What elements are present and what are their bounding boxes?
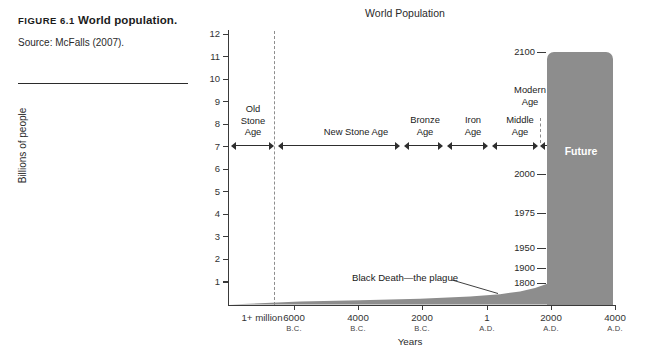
year-marker-1950: 1950 <box>495 242 535 253</box>
era-arrow-left-iron-age <box>447 142 452 150</box>
y-tick-mark-1 <box>223 281 228 282</box>
x-tick-era-5: A.D. <box>516 324 586 333</box>
year-marker-2100: 2100 <box>495 46 535 57</box>
x-tick-label-6: 4000A.D. <box>580 312 648 333</box>
y-tick-mark-12 <box>223 34 228 35</box>
era-arrow-left-old-stone-age <box>231 142 236 150</box>
y-tick-mark-11 <box>223 56 228 57</box>
y-tick-label-1: 1 <box>176 276 220 287</box>
year-marker-dash-1975 <box>537 213 546 214</box>
x-tick-mark-3 <box>422 305 423 310</box>
x-tick-value-6: 4000 <box>604 312 626 323</box>
x-tick-value-4: 1 <box>484 312 489 323</box>
x-tick-era-1: B.C. <box>259 324 329 333</box>
y-tick-mark-10 <box>223 79 228 80</box>
x-tick-label-1: 6000B.C. <box>259 312 329 333</box>
x-tick-value-5: 2000 <box>540 312 562 323</box>
divider-old-new-stone-age <box>274 31 275 305</box>
year-marker-2000: 2000 <box>495 168 535 179</box>
x-tick-label-5: 2000A.D. <box>516 312 586 333</box>
era-label-middle-age: MiddleAge <box>497 114 543 137</box>
x-tick-mark-5 <box>551 305 552 310</box>
y-tick-mark-9 <box>223 101 228 102</box>
x-tick-value-2: 4000 <box>347 312 369 323</box>
x-axis-label: Years <box>370 336 450 347</box>
x-tick-label-3: 2000B.C. <box>387 312 457 333</box>
era-span-old-stone-age <box>236 145 270 146</box>
y-tick-mark-5 <box>223 191 228 192</box>
y-tick-label-9: 9 <box>176 96 220 107</box>
y-tick-label-6: 6 <box>176 163 220 174</box>
x-tick-era-2: B.C. <box>323 324 393 333</box>
era-span-iron-age <box>452 145 484 146</box>
year-marker-dash-2000 <box>537 174 546 175</box>
x-tick-value-3: 2000 <box>411 312 433 323</box>
x-tick-mark-6 <box>615 305 616 310</box>
x-tick-label-2: 4000B.C. <box>323 312 393 333</box>
x-tick-mark-4 <box>487 305 488 310</box>
y-tick-mark-4 <box>223 214 228 215</box>
era-arrow-left-middle-age <box>492 142 497 150</box>
era-arrow-left-new-stone-age <box>278 142 283 150</box>
era-span-new-stone-age <box>283 145 396 146</box>
era-label-old-stone-age: OldStoneAge <box>232 103 274 138</box>
year-marker-1900: 1900 <box>495 262 535 273</box>
era-arrow-right-iron-age <box>483 142 488 150</box>
y-tick-mark-2 <box>223 259 228 260</box>
chart-title: World Population <box>330 7 480 19</box>
y-tick-label-3: 3 <box>176 231 220 242</box>
year-marker-dash-2100 <box>537 52 546 53</box>
year-marker-1975: 1975 <box>495 207 535 218</box>
era-span-bronze-age <box>409 145 439 146</box>
x-tick-value-1: 6000 <box>283 312 305 323</box>
y-tick-label-8: 8 <box>176 118 220 129</box>
chart-area: World Population Billions of people Year… <box>0 0 648 363</box>
era-arrow-right-middle-age <box>533 142 538 150</box>
y-tick-label-12: 12 <box>176 28 220 39</box>
year-marker-1800: 1800 <box>495 277 535 288</box>
x-tick-mark-1 <box>294 305 295 310</box>
y-axis-line <box>228 30 229 306</box>
future-projection-block <box>547 52 613 305</box>
era-arrow-right-old-stone-age <box>269 142 274 150</box>
x-tick-mark-2 <box>358 305 359 310</box>
y-tick-label-11: 11 <box>176 51 220 62</box>
figure-container: FIGURE 6.1 World population. Source: McF… <box>0 0 648 363</box>
y-tick-mark-8 <box>223 124 228 125</box>
era-arrow-left-modern-age <box>540 142 545 150</box>
y-tick-label-2: 2 <box>176 253 220 264</box>
y-tick-label-7: 7 <box>176 141 220 152</box>
year-marker-dash-1950 <box>537 248 546 249</box>
x-tick-label-4: 1A.D. <box>452 312 522 333</box>
y-tick-label-4: 4 <box>176 208 220 219</box>
annotation-black-death: Black Death—the plague <box>352 272 458 283</box>
x-tick-era-4: A.D. <box>452 324 522 333</box>
y-tick-label-5: 5 <box>176 186 220 197</box>
era-arrow-right-new-stone-age <box>395 142 400 150</box>
era-label-iron-age: IronAge <box>455 114 491 137</box>
era-label-bronze-age: BronzeAge <box>400 114 450 137</box>
future-label: Future <box>551 145 611 157</box>
year-marker-dash-1800 <box>537 283 546 284</box>
x-tick-era-3: B.C. <box>387 324 457 333</box>
y-tick-mark-3 <box>223 236 228 237</box>
y-axis-label: Billions of people <box>17 86 28 206</box>
year-marker-dash-1900 <box>537 268 546 269</box>
y-tick-label-10: 10 <box>176 73 220 84</box>
era-arrow-left-bronze-age <box>404 142 409 150</box>
y-tick-mark-7 <box>223 146 228 147</box>
y-tick-mark-6 <box>223 169 228 170</box>
era-arrow-right-bronze-age <box>438 142 443 150</box>
era-span-middle-age <box>497 145 534 146</box>
x-tick-era-6: A.D. <box>580 324 648 333</box>
